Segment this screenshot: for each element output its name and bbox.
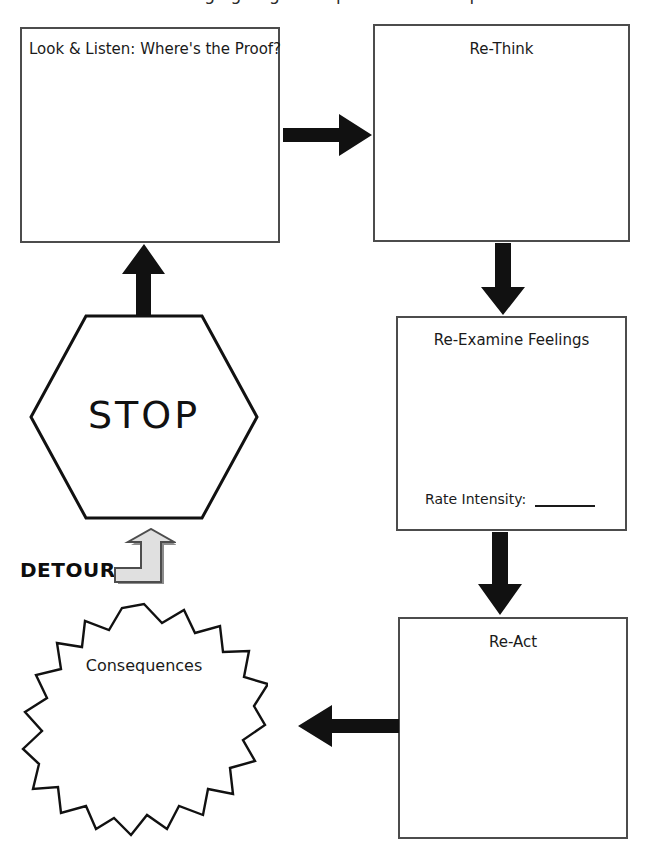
arrow-down-icon [477,532,523,616]
arrow-look-listen-to-re-think [283,112,373,158]
rate-intensity-blank-line[interactable] [535,493,595,507]
rate-intensity-label: Rate Intensity: [425,491,526,507]
page-heading-cropped: Managing Anger: Stop and Think Steps [0,0,647,14]
bent-up-arrow-icon [108,528,176,584]
detour-bent-arrow [108,528,176,584]
arrow-stop-to-look-listen [122,244,166,320]
arrow-right-icon [283,112,373,158]
rate-intensity-field[interactable]: Rate Intensity: [425,491,595,507]
box-re-act-title: Re-Act [400,633,626,651]
arrow-up-icon [122,244,166,320]
arrow-down-icon [480,243,526,316]
box-look-listen-title: Look & Listen: Where's the Proof? [22,40,278,58]
page-heading-text: Managing Anger: Stop and Think Steps [0,0,647,4]
box-look-listen[interactable]: Look & Listen: Where's the Proof? [20,27,280,243]
starburst-icon [20,601,268,843]
worksheet-page: Managing Anger: Stop and Think Steps Loo… [0,0,647,853]
arrow-re-act-to-consequences [297,703,399,749]
stop-label: STOP [28,393,260,437]
box-re-act[interactable]: Re-Act [398,617,628,839]
box-re-think[interactable]: Re-Think [373,24,630,242]
shape-consequences-starburst[interactable] [20,601,268,843]
consequences-label: Consequences [20,656,268,675]
arrow-re-think-to-re-examine [480,243,526,316]
box-re-examine-feelings-title: Re-Examine Feelings [398,331,625,349]
box-re-think-title: Re-Think [375,40,628,58]
arrow-re-examine-to-re-act [477,532,523,616]
arrow-left-icon [297,703,399,749]
box-re-examine-feelings[interactable]: Re-Examine Feelings Rate Intensity: [396,316,627,531]
detour-label: DETOUR [20,558,116,582]
